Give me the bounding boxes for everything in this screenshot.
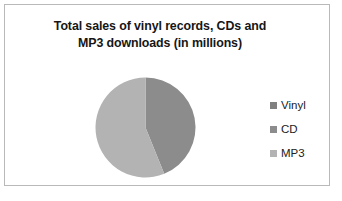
pie-chart	[87, 69, 204, 186]
legend-label-cd: CD	[281, 123, 298, 135]
legend-swatch-mp3-icon	[270, 150, 277, 157]
chart-frame: Total sales of vinyl records, CDs and MP…	[4, 4, 330, 186]
legend-swatch-vinyl-icon	[270, 102, 277, 109]
plot-area: Vinyl CD MP3	[5, 5, 331, 187]
legend-label-vinyl: Vinyl	[281, 99, 306, 111]
legend-item-cd[interactable]: CD	[270, 117, 332, 141]
legend-swatch-cd-icon	[270, 126, 277, 133]
chart-legend: Vinyl CD MP3	[270, 93, 332, 165]
legend-item-vinyl[interactable]: Vinyl	[270, 93, 332, 117]
legend-label-mp3: MP3	[281, 147, 305, 159]
legend-item-mp3[interactable]: MP3	[270, 141, 332, 165]
pie-slices	[96, 78, 196, 178]
